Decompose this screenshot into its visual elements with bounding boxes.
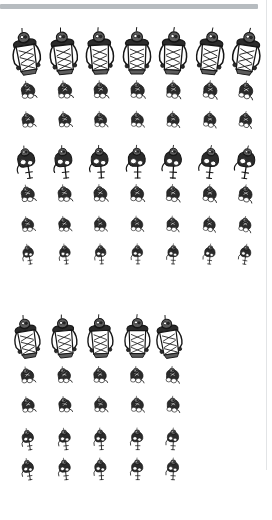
sprite-b2r2c4[interactable] [125, 362, 148, 392]
sprite-b2r3c4[interactable] [126, 392, 148, 421]
humanoid-figure-icon [19, 425, 41, 454]
sprite-b2r3c1[interactable] [19, 392, 41, 421]
sprite-b2r1c1[interactable] [12, 315, 49, 363]
humanoid-figure-icon [90, 425, 112, 454]
humanoid-figure-icon [18, 362, 41, 392]
sprite-b2r3c3[interactable] [90, 392, 112, 421]
sprite-b2r4c5[interactable] [161, 425, 183, 454]
humanoid-figure-icon [54, 362, 77, 392]
humanoid-figure-icon [161, 425, 183, 454]
humanoid-figure-icon [161, 455, 183, 484]
humanoid-figure-icon [19, 455, 41, 484]
humanoid-figure-icon [119, 315, 156, 363]
sprite-b2r1c5[interactable] [154, 315, 191, 363]
humanoid-figure-icon [126, 455, 148, 484]
humanoid-figure-icon [125, 362, 148, 392]
sprite-b2r4c3[interactable] [90, 425, 112, 454]
humanoid-figure-icon [90, 392, 112, 421]
sprite-sheet-canvas [0, 0, 272, 520]
sprite-b2r2c2[interactable] [54, 362, 77, 392]
humanoid-figure-icon [126, 425, 148, 454]
humanoid-figure-icon [55, 455, 77, 484]
sprite-b2r2c5[interactable] [160, 362, 183, 392]
sprite-b2r3c5[interactable] [161, 392, 183, 421]
sprite-b2r1c3[interactable] [83, 315, 120, 363]
sprite-block-lower [0, 0, 272, 520]
humanoid-figure-icon [55, 425, 77, 454]
humanoid-figure-icon [55, 392, 77, 421]
humanoid-figure-icon [126, 392, 148, 421]
humanoid-figure-icon [161, 392, 183, 421]
sprite-b2r4c1[interactable] [19, 425, 41, 454]
sprite-b2r2c1[interactable] [18, 362, 41, 392]
sprite-b2r1c2[interactable] [48, 315, 85, 363]
humanoid-figure-icon [12, 315, 49, 363]
humanoid-figure-icon [90, 455, 112, 484]
humanoid-figure-icon [89, 362, 112, 392]
sprite-b2r2c3[interactable] [89, 362, 112, 392]
humanoid-figure-icon [154, 315, 191, 363]
sprite-b2r5c2[interactable] [55, 455, 77, 484]
sprite-b2r4c2[interactable] [55, 425, 77, 454]
sprite-b2r4c4[interactable] [126, 425, 148, 454]
sprite-b2r5c3[interactable] [90, 455, 112, 484]
humanoid-figure-icon [83, 315, 120, 363]
humanoid-figure-icon [160, 362, 183, 392]
sprite-b2r5c4[interactable] [126, 455, 148, 484]
sprite-b2r3c2[interactable] [55, 392, 77, 421]
humanoid-figure-icon [19, 392, 41, 421]
humanoid-figure-icon [48, 315, 85, 363]
sprite-b2r1c4[interactable] [119, 315, 156, 363]
sprite-b2r5c1[interactable] [19, 455, 41, 484]
sprite-b2r5c5[interactable] [161, 455, 183, 484]
